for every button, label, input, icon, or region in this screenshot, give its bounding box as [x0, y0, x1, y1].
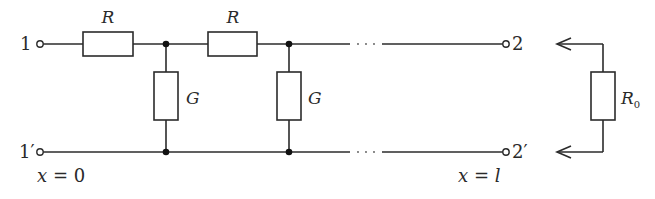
- terminal-1-prime-label: 1′: [19, 141, 35, 162]
- junction-node: [286, 41, 293, 48]
- circuit-diagram: R R G G 1 1′ 2 2′ x = 0: [0, 0, 655, 199]
- series-resistor-2: R: [208, 7, 257, 56]
- shunt-conductance-1: G: [154, 44, 200, 152]
- load-resistor-label: R0: [620, 88, 640, 110]
- series-resistor-1-label: R: [101, 7, 115, 27]
- terminal-1-prime: 1′: [19, 141, 43, 162]
- series-resistor-2-label: R: [226, 7, 240, 27]
- terminal-2-prime: 2′: [503, 141, 528, 162]
- terminal-2-prime-label: 2′: [512, 141, 528, 162]
- shunt-conductance-2: G: [277, 44, 322, 152]
- shunt-conductance-1-label: G: [186, 88, 200, 108]
- junction-node: [286, 149, 293, 156]
- shunt-conductance-2-label: G: [308, 88, 322, 108]
- position-label-start: x = 0: [37, 165, 85, 186]
- continuation-dots-top: [357, 43, 375, 45]
- terminal-1: 1: [20, 33, 43, 54]
- junction-node: [163, 149, 170, 156]
- junction-node: [163, 41, 170, 48]
- series-resistor-1: R: [83, 7, 133, 56]
- terminal-2-label: 2: [512, 33, 523, 54]
- terminal-2: 2: [503, 33, 524, 54]
- continuation-dots-bottom: [357, 151, 375, 153]
- position-label-end: x = l: [458, 165, 501, 186]
- load-resistor: R0: [557, 44, 640, 152]
- terminal-1-label: 1: [20, 33, 31, 54]
